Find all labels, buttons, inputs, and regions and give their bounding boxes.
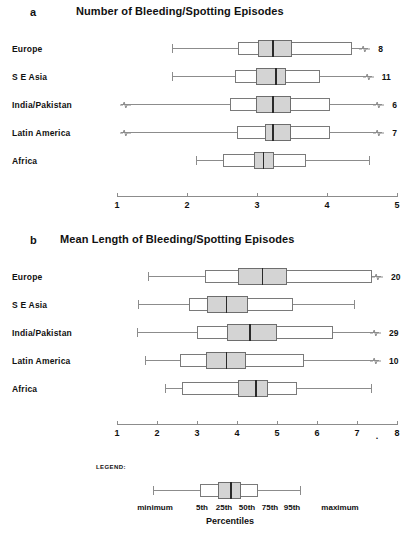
legend-boxplot-row (0, 482, 418, 500)
legend-whisker-cap-high (300, 486, 301, 495)
axis-break-left-icon (120, 127, 131, 138)
panel-a-letter: a (30, 6, 36, 18)
axis-tick-label-2: 2 (154, 428, 159, 438)
legend-heading: LEGEND: (96, 464, 126, 470)
row-count-0: 20 (391, 272, 400, 282)
whisker-cap-low (145, 356, 146, 365)
boxplot-row: India/Pakistan6 (0, 96, 418, 114)
axis-tick-label-4: 4 (234, 428, 239, 438)
median-line (249, 324, 251, 341)
box-outer-p5-p95 (238, 42, 352, 55)
box-inner-p25-p75 (258, 40, 292, 57)
axis-tick-label-3: 3 (254, 200, 259, 210)
boxplot-row: Europe20 (0, 268, 418, 286)
axis-tick-label-3: 3 (194, 428, 199, 438)
legend-axis-title: Percentiles (206, 516, 254, 526)
median-line (272, 96, 274, 113)
axis-break-right-icon (370, 327, 381, 338)
axis-tick-label-8: 8 (394, 428, 399, 438)
axis-tick-label-4: 4 (324, 200, 329, 210)
axis-tick-label-1: 1 (114, 200, 119, 210)
axis-break-right-icon (363, 71, 374, 82)
panel-b: b Mean Length of Bleeding/Spotting Episo… (0, 228, 418, 456)
legend-label-75th: 75th (262, 503, 278, 512)
axis-tick-8 (397, 421, 398, 425)
whisker-low (172, 48, 238, 49)
axis-tick-label-6: 6 (314, 428, 319, 438)
boxplot-row: India/Pakistan29 (0, 324, 418, 342)
whisker-cap-low (172, 72, 173, 81)
median-line (255, 380, 257, 397)
whisker-cap-low (138, 300, 139, 309)
row-label-4: Africa (12, 384, 37, 394)
boxplot-row: Latin America10 (0, 352, 418, 370)
whisker-low (121, 104, 231, 105)
whisker-cap-low (148, 272, 149, 281)
row-count-2: 6 (392, 100, 397, 110)
legend-label-25th: 25th (216, 503, 232, 512)
whisker-cap-low (172, 44, 173, 53)
row-label-3: Latin America (12, 128, 71, 138)
legend-label-50th: 50th (239, 503, 255, 512)
box-inner-p25-p75 (265, 124, 290, 141)
box-inner-p25-p75 (256, 68, 286, 85)
legend-whisker-low (153, 490, 200, 491)
row-label-2: India/Pakistan (12, 328, 72, 338)
legend-whisker-cap-low (153, 486, 154, 495)
row-label-3: Latin America (12, 356, 71, 366)
axis-break-right-icon (373, 99, 384, 110)
axis-break-right-icon (373, 127, 384, 138)
axis-tick-5 (397, 193, 398, 197)
axis-tick-4 (237, 421, 238, 425)
whisker-high (297, 388, 371, 389)
axis-tick-label-7: 7 (354, 428, 359, 438)
whisker-low (148, 276, 205, 277)
panel-b-title: Mean Length of Bleeding/Spotting Episode… (60, 233, 295, 245)
axis-tick-label-5: 5 (394, 200, 399, 210)
panel-b-letter: b (30, 234, 37, 246)
row-label-1: S E Asia (12, 300, 47, 310)
legend-whisker-high (258, 490, 300, 491)
row-count-2: 29 (389, 328, 398, 338)
whisker-cap-high (369, 156, 370, 165)
box-inner-p25-p75 (238, 380, 268, 397)
axis-tick-4 (327, 193, 328, 197)
boxplot-row: S E Asia11 (0, 68, 418, 86)
panel-a-title: Number of Bleeding/Spotting Episodes (76, 5, 284, 17)
axis-tick-2 (187, 193, 188, 197)
panel-a: a Number of Bleeding/Spotting Episodes E… (0, 0, 418, 228)
legend-label-5th: 5th (196, 503, 208, 512)
whisker-low (165, 388, 182, 389)
row-count-1: 11 (382, 72, 391, 82)
axis-tick-5 (277, 421, 278, 425)
row-count-3: 10 (389, 356, 398, 366)
row-label-4: Africa (12, 156, 37, 166)
row-count-3: 7 (392, 128, 397, 138)
axis-tick-1 (117, 193, 118, 197)
boxplot-row: Latin America7 (0, 124, 418, 142)
median-line (272, 40, 274, 57)
legend-median-line (230, 482, 232, 499)
boxplot-row: S E Asia (0, 296, 418, 314)
axis-tick-6 (317, 421, 318, 425)
whisker-low (145, 360, 180, 361)
panel-a-axis: 12345 (0, 196, 418, 216)
whisker-low (172, 76, 235, 77)
axis-break-marker: . (376, 431, 379, 441)
boxplot-row: Africa (0, 152, 418, 170)
whisker-cap-low (137, 328, 138, 337)
axis-break-right-icon (359, 43, 370, 54)
axis-tick-3 (197, 421, 198, 425)
median-line (226, 296, 228, 313)
whisker-high (304, 360, 379, 361)
median-line (275, 68, 277, 85)
whisker-low (137, 332, 197, 333)
row-label-2: India/Pakistan (12, 100, 72, 110)
axis-tick-label-1: 1 (114, 428, 119, 438)
axis-tick-label-5: 5 (274, 428, 279, 438)
median-line (226, 352, 228, 369)
whisker-high (306, 160, 369, 161)
whisker-low (121, 132, 238, 133)
row-count-0: 8 (378, 44, 383, 54)
legend-label-maximum: maximum (321, 503, 358, 512)
